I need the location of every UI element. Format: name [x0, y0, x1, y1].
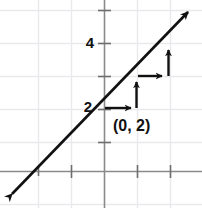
y-tick-label-4: 4 [86, 34, 95, 51]
y-tick-label-2: 2 [84, 98, 92, 115]
coordinate-plane-graph: 2 4 (0, 2) [0, 0, 202, 208]
intercept-point-label: (0, 2) [113, 117, 150, 134]
graph-canvas: 2 4 (0, 2) [0, 0, 202, 208]
